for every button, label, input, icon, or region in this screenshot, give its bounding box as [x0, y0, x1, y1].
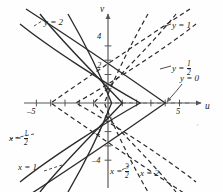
curve-label-y-1: y = 1	[172, 21, 191, 30]
v-tick-label-4: 4	[97, 31, 101, 41]
curve-label-x-half: x = 12	[9, 130, 28, 147]
curve-label-x-half-prefix: x =	[9, 133, 24, 143]
leader-y-2	[34, 21, 42, 26]
curve-label-y-0: y = 0	[180, 74, 199, 83]
conformal-mapping-figure: u v –5 5 4 2 –2 –4 y = 2 y = 1 y = 12 y …	[0, 0, 223, 192]
v-tick-label-minus4: –4	[92, 155, 101, 165]
u-tick-label-5: 5	[176, 106, 180, 116]
fraction-one-half-x: 12	[24, 130, 29, 147]
fraction-three-halves: 32	[125, 163, 130, 180]
curve-label-x-2: x = 2	[140, 169, 159, 178]
curve-label-x-three-halves-prefix: x =	[110, 166, 125, 176]
u-tick-label-minus5: –5	[27, 106, 36, 116]
leader-arrow-y-0	[167, 84, 182, 102]
curve-label-x-three-halves: x = 32	[110, 163, 129, 180]
v-axis-label: v	[100, 4, 104, 14]
curve-label-x-1: x = 1	[18, 163, 37, 172]
curve-label-y-2: y = 2	[44, 18, 63, 27]
fraction-denominator: 2	[125, 172, 130, 180]
leader-y-half	[160, 66, 171, 69]
v-tick-label-minus2: –2	[92, 127, 101, 137]
leader-y-1	[162, 24, 171, 27]
scan-artifact: ’	[196, 122, 199, 132]
u-axis-label: u	[205, 101, 210, 111]
curve-label-y-half-prefix: y =	[172, 63, 187, 73]
v-tick-label-2: 2	[97, 60, 101, 70]
fraction-denominator: 2	[24, 139, 29, 147]
